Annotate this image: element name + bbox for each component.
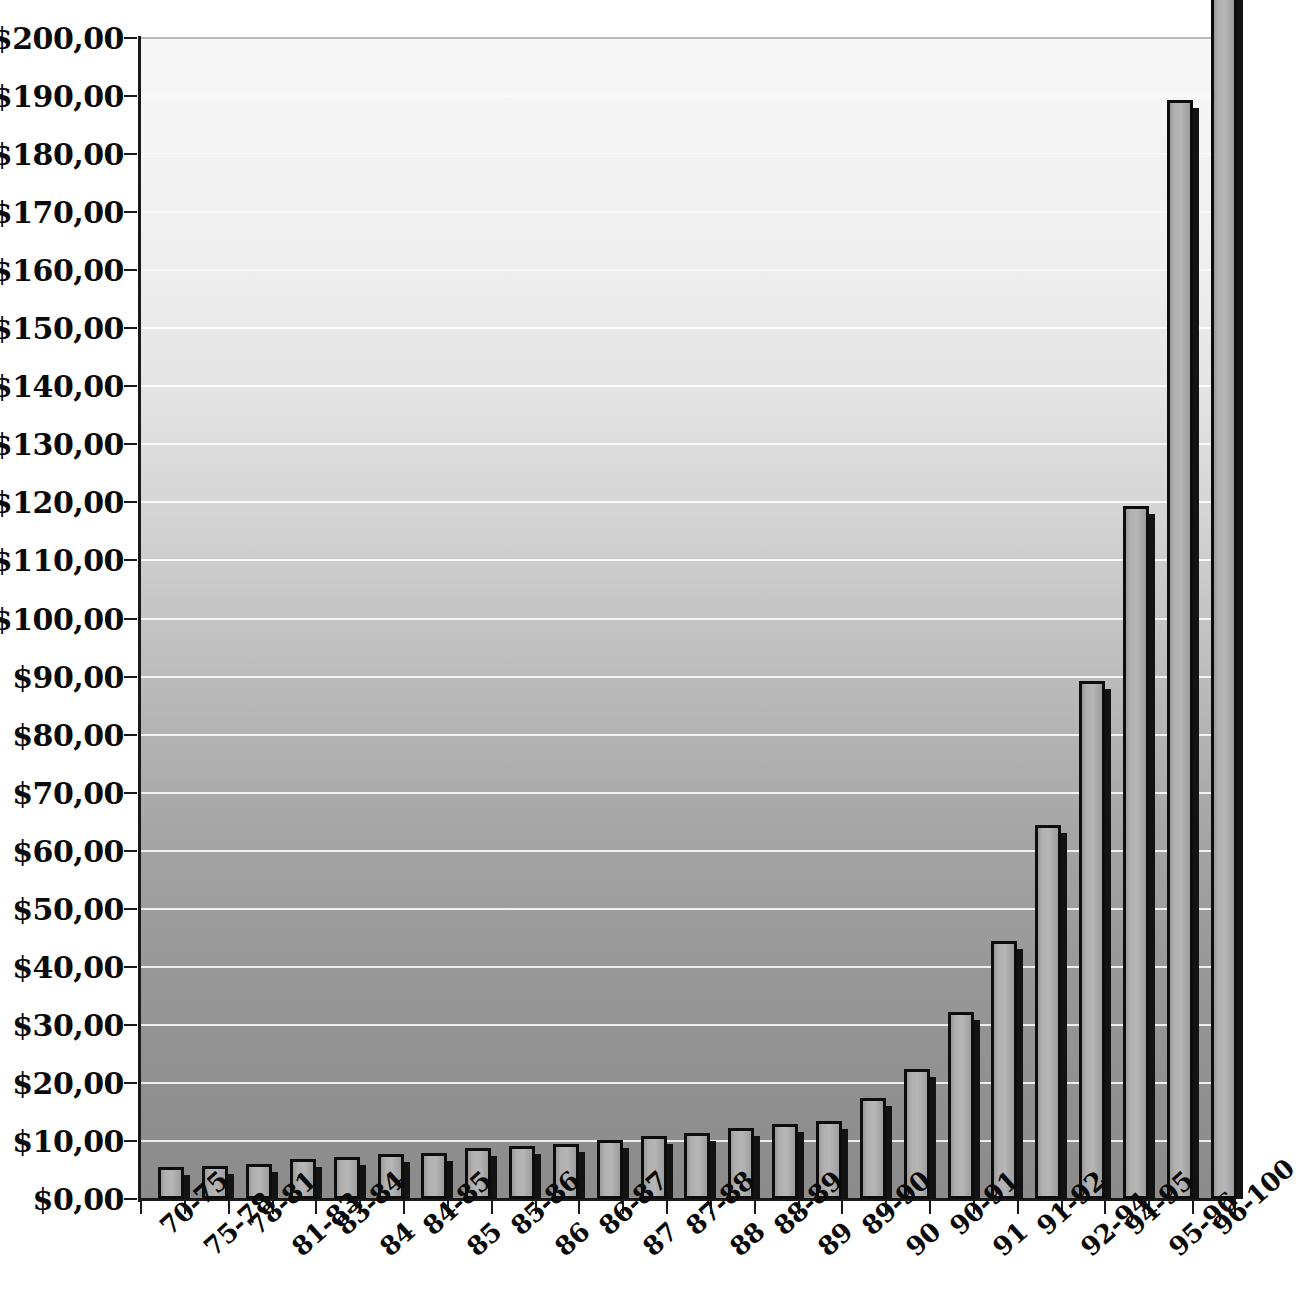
bar[interactable] [1123,506,1149,1199]
y-axis-tick-label: $170,00 [0,195,124,230]
y-axis-tick-mark [124,792,137,794]
gridline [140,1024,1236,1026]
bar[interactable] [991,941,1017,1199]
gridline [140,618,1236,620]
y-axis-tick-label: $120,00 [0,485,124,520]
x-axis-tick-label: 84 [374,1216,420,1262]
gridline [140,443,1236,445]
y-axis-tick-label: $160,00 [0,253,124,288]
x-axis-tick-label: 88 [724,1216,770,1262]
x-axis-tick-mark [578,1199,580,1214]
bar[interactable] [509,1146,535,1199]
x-axis-tick-label: 89 [812,1216,858,1262]
gridline [140,269,1236,271]
x-axis-tick-mark [491,1199,493,1214]
y-axis-tick-label: $90,00 [12,659,124,694]
gridline [140,385,1236,387]
x-axis-tick-mark [1017,1199,1019,1214]
x-axis-tick-mark [754,1199,756,1214]
y-axis-tick-label: $100,00 [0,601,124,636]
y-axis-tick-label: $180,00 [0,137,124,172]
bar[interactable] [948,1012,974,1199]
gridline [140,850,1236,852]
y-axis-tick-label: $0,00 [33,1182,124,1217]
gridline [140,501,1236,503]
x-axis-tick-mark [403,1199,405,1214]
y-axis-tick-mark [124,385,137,387]
bar[interactable] [772,1124,798,1199]
y-axis-tick-label: $20,00 [12,1065,124,1100]
y-axis-tick-mark [124,850,137,852]
gridline [140,908,1236,910]
y-axis-tick-label: $40,00 [12,949,124,984]
x-axis-tick-label: 90 [900,1216,946,1262]
y-axis-tick-label: $190,00 [0,79,124,114]
plot-area [140,38,1236,1199]
y-axis-tick-mark [124,269,137,271]
y-axis-tick-mark [124,1024,137,1026]
y-axis-tick-label: $80,00 [12,717,124,752]
y-axis-tick-mark [124,501,137,503]
gridline [140,327,1236,329]
y-axis-tick-label: $150,00 [0,311,124,346]
y-axis-tick-mark [124,37,137,39]
gridline [140,559,1236,561]
y-axis-tick-label: $10,00 [12,1123,124,1158]
y-axis-tick-label: $50,00 [12,891,124,926]
gridline [140,153,1236,155]
bar[interactable] [1211,0,1237,1199]
y-axis-tick-label: $130,00 [0,427,124,462]
y-axis-tick-mark [124,211,137,213]
y-axis-tick-mark [124,1082,137,1084]
y-axis-tick-mark [124,95,137,97]
y-axis-tick-mark [124,1140,137,1142]
y-axis-tick-mark [124,966,137,968]
x-axis-tick-mark [140,1199,142,1214]
x-axis-tick-mark [666,1199,668,1214]
gridline [140,95,1236,97]
y-axis-tick-label: $140,00 [0,369,124,404]
y-axis-tick-label: $200,00 [0,21,124,56]
y-axis-tick-mark [124,618,137,620]
y-axis-line [138,36,141,1202]
gridline [140,1082,1236,1084]
x-axis-tick-mark [841,1199,843,1214]
gridline [140,211,1236,213]
plot-top-border [140,37,1236,39]
x-axis-tick-label: 91 [987,1216,1033,1262]
x-axis-tick-mark [929,1199,931,1214]
y-axis-tick-mark [124,327,137,329]
gridline [140,734,1236,736]
y-axis-tick-mark [124,908,137,910]
y-axis-tick-mark [124,559,137,561]
x-axis-tick-label: 85 [461,1216,507,1262]
y-axis-tick-mark [124,734,137,736]
gridline [140,792,1236,794]
y-axis-tick-mark [124,153,137,155]
y-axis-tick-label: $60,00 [12,833,124,868]
y-axis-tick-label: $110,00 [0,543,124,578]
x-axis-tick-label: 86 [549,1216,595,1262]
bar[interactable] [1079,681,1105,1199]
bar[interactable] [1035,825,1061,1199]
bar[interactable] [684,1133,710,1199]
y-axis-tick-mark [124,1198,137,1200]
bar[interactable] [597,1140,623,1199]
gridline [140,966,1236,968]
x-axis-tick-label: 87 [637,1216,683,1262]
gridline [140,676,1236,678]
bar[interactable] [1167,100,1193,1199]
bar[interactable] [860,1098,886,1199]
y-axis-tick-label: $30,00 [12,1007,124,1042]
bar[interactable] [421,1153,447,1199]
y-axis-tick-mark [124,443,137,445]
y-axis-labels: $200,00$190,00$180,00$170,00$160,00$150,… [0,0,132,1301]
y-axis-tick-mark [124,676,137,678]
y-axis-tick-label: $70,00 [12,775,124,810]
